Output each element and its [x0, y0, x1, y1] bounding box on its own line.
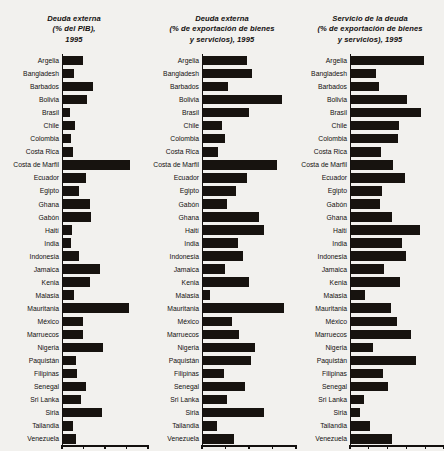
bar-track	[350, 250, 444, 263]
bar-row: Kenia	[148, 276, 296, 289]
category-label: Haití	[296, 226, 350, 235]
bar-track	[62, 80, 148, 93]
bar	[351, 199, 380, 209]
bar-track	[350, 432, 444, 445]
axis-tick	[349, 445, 350, 448]
chart-3-axis-spacer	[296, 445, 350, 451]
category-label: Mauritania	[296, 304, 350, 313]
bar-track	[350, 367, 444, 380]
bar-track	[62, 132, 148, 145]
category-label: Venezuela	[148, 434, 202, 443]
category-label: Mauritania	[0, 304, 62, 313]
bar	[63, 134, 71, 144]
bar	[203, 434, 234, 444]
bar-track	[62, 263, 148, 276]
category-label: Marruecos	[0, 330, 62, 339]
bar-row: Barbados	[0, 80, 148, 93]
category-label: Malasia	[148, 291, 202, 300]
bar-track	[202, 54, 296, 67]
bar-row: Ecuador	[148, 171, 296, 184]
bar-row: Filipinas	[296, 367, 444, 380]
bar-row: Costa Rica	[296, 145, 444, 158]
bar-track	[62, 67, 148, 80]
bar	[203, 356, 251, 366]
category-label: Haití	[148, 226, 202, 235]
bar	[63, 264, 100, 274]
category-label: Senegal	[0, 382, 62, 391]
bar-track	[350, 54, 444, 67]
bar	[351, 56, 424, 66]
category-label: Costa Rica	[296, 147, 350, 156]
bar-track	[202, 328, 296, 341]
category-label: Jamaica	[148, 265, 202, 274]
bar-track	[202, 158, 296, 171]
bar-track	[350, 419, 444, 432]
bar-row: Indonesia	[148, 250, 296, 263]
category-label: Chile	[0, 121, 62, 130]
bar	[203, 277, 249, 287]
bar-row: Costa Rica	[0, 145, 148, 158]
bar	[63, 382, 86, 392]
chart-panel-servicio-deuda: Servicio de la deuda (% de exportación d…	[296, 14, 444, 451]
bar-track	[62, 419, 148, 432]
bar	[63, 238, 71, 248]
category-label: Barbados	[0, 82, 62, 91]
bar-track	[350, 132, 444, 145]
bar-row: Gabón	[148, 198, 296, 211]
bar-row: Egipto	[0, 184, 148, 197]
bar	[203, 134, 225, 144]
bar-row: Malasia	[0, 289, 148, 302]
bar-row: Paquistán	[296, 354, 444, 367]
bar	[63, 434, 76, 444]
bar	[63, 186, 79, 196]
category-label: Ecuador	[296, 173, 350, 182]
category-label: Costa de Marfil	[148, 160, 202, 169]
category-label: Nigeria	[148, 343, 202, 352]
chart-2-title-line-3: y servicios), 1995	[150, 35, 294, 45]
category-label: Brasil	[296, 108, 350, 117]
bar-row: Bolivia	[148, 93, 296, 106]
category-label: Siria	[296, 408, 350, 417]
chart-3-title-line-1: Servicio de la deuda	[298, 14, 442, 24]
bar-track	[202, 67, 296, 80]
bar-track	[202, 106, 296, 119]
category-label: México	[296, 317, 350, 326]
category-label: Colombia	[296, 134, 350, 143]
chart-2-bars: ArgeliaBangladeshBarbadosBoliviaBrasilCh…	[148, 54, 296, 445]
bar	[203, 56, 247, 66]
bar	[203, 186, 236, 196]
bar	[203, 238, 238, 248]
bar-row: India	[0, 237, 148, 250]
bar	[63, 95, 87, 105]
bar	[203, 199, 227, 209]
bar	[203, 251, 243, 261]
chart-2-title-line-2: (% de exportación de bienes	[150, 24, 294, 34]
category-label: Egipto	[148, 186, 202, 195]
bar	[63, 108, 70, 118]
bar	[63, 408, 102, 418]
bar-row: Kenia	[0, 276, 148, 289]
bar	[203, 317, 232, 327]
bar-track	[202, 171, 296, 184]
bar-row: Sri Lanka	[148, 393, 296, 406]
bar-track	[62, 341, 148, 354]
bar-row: Sri Lanka	[0, 393, 148, 406]
bar-track	[62, 432, 148, 445]
bar-row: Colombia	[296, 132, 444, 145]
axis-tick	[201, 445, 202, 448]
bar	[63, 147, 73, 157]
category-label: Haití	[0, 226, 62, 235]
bar	[63, 343, 103, 353]
bar	[351, 238, 402, 248]
bar-row: Siria	[296, 406, 444, 419]
bar	[203, 421, 217, 431]
bar	[63, 290, 74, 300]
bar	[63, 199, 90, 209]
bar	[203, 408, 264, 418]
bar-row: Argelia	[148, 54, 296, 67]
category-label: Senegal	[148, 382, 202, 391]
category-label: Kenia	[0, 278, 62, 287]
bar	[203, 290, 210, 300]
bar	[351, 264, 384, 274]
bar-row: Mauritania	[0, 302, 148, 315]
